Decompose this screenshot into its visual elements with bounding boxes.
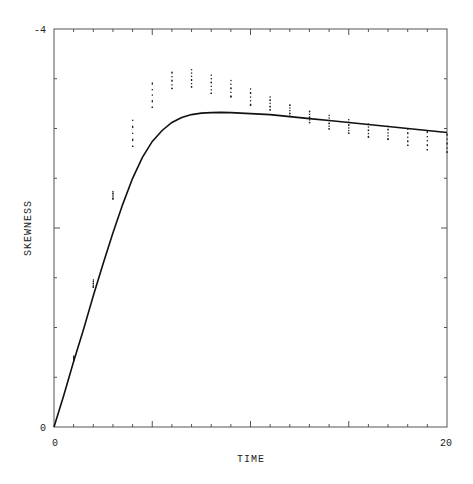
- y-tick-label-bottom: 0: [40, 423, 46, 434]
- skewness-chart: -4 0 0 20 TIME SKEWNESS: [0, 0, 473, 484]
- scatter-points: [73, 69, 448, 360]
- model-curve: [54, 112, 447, 427]
- y-tick-label-top: -4: [34, 25, 46, 36]
- x-axis-label: TIME: [237, 454, 265, 465]
- x-tick-label-right: 20: [440, 438, 452, 449]
- y-axis-label: SKEWNESS: [23, 200, 34, 256]
- x-tick-label-left: 0: [52, 438, 58, 449]
